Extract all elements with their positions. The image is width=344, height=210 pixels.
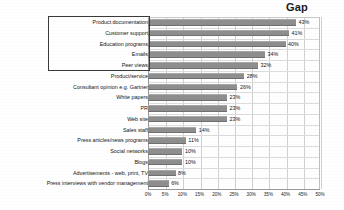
bar-row: Blogs10%	[0, 157, 344, 168]
bar-chart: Gap Product documentation43%Customer sup…	[0, 0, 344, 210]
bar	[148, 127, 196, 133]
category-label: White papers	[0, 92, 148, 103]
bar-value-label: 23%	[230, 103, 241, 114]
bar-value-label: 10%	[185, 157, 196, 168]
bar	[148, 94, 227, 100]
category-label: Sales staff	[0, 125, 148, 136]
chart-title: Gap	[286, 1, 308, 13]
bar	[148, 137, 186, 143]
category-label: Consultant opinion e.g. Gartner	[0, 82, 148, 93]
bar	[148, 19, 296, 25]
top-five-highlight-box	[48, 16, 150, 71]
category-label: PR	[0, 103, 148, 114]
bar-value-label: 34%	[267, 49, 278, 60]
bar-row: Press interviews with vendor management6…	[0, 178, 344, 189]
category-label: Web site	[0, 114, 148, 125]
bar-value-label: 10%	[185, 146, 196, 157]
bar	[148, 105, 227, 111]
bar-value-label: 26%	[240, 82, 251, 93]
bar-value-label: 40%	[288, 39, 299, 50]
bar	[148, 30, 289, 36]
bar	[148, 180, 169, 186]
bar	[148, 73, 244, 79]
bar-value-label: 14%	[199, 125, 210, 136]
x-tick-label: 50%	[310, 192, 330, 197]
bar-value-label: 41%	[292, 28, 303, 39]
bar	[148, 62, 258, 68]
bar-value-label: 11%	[188, 135, 198, 146]
bar-row: Press articles/news programs11%	[0, 135, 344, 146]
bar-row: Social networks10%	[0, 146, 344, 157]
bar-value-label: 23%	[230, 114, 241, 125]
category-label: Blogs	[0, 157, 148, 168]
category-label: Social networks	[0, 146, 148, 157]
bar-row: PR23%	[0, 103, 344, 114]
bar	[148, 170, 176, 176]
category-label: Press interviews with vendor management	[0, 178, 148, 189]
bar	[148, 41, 286, 47]
bar	[148, 51, 265, 57]
bar-row: Sales staff14%	[0, 125, 344, 136]
bar	[148, 116, 227, 122]
category-label: Press articles/news programs	[0, 135, 148, 146]
bar-row: White papers23%	[0, 92, 344, 103]
category-label: Product/service	[0, 71, 148, 82]
x-axis-line	[148, 189, 320, 190]
bar-value-label: 43%	[298, 17, 309, 28]
bar	[148, 148, 182, 154]
bar-value-label: 23%	[230, 92, 241, 103]
bar	[148, 84, 237, 90]
bar-value-label: 32%	[261, 60, 272, 71]
bar-value-label: 6%	[171, 178, 179, 189]
bar-row: Consultant opinion e.g. Gartner26%	[0, 82, 344, 93]
bar-row: Product/service28%	[0, 71, 344, 82]
bar-row: Advertisements - web, print, TV8%	[0, 168, 344, 179]
bar-row: Web site23%	[0, 114, 344, 125]
category-label: Advertisements - web, print, TV	[0, 168, 148, 179]
bar-value-label: 28%	[247, 71, 258, 82]
bar-value-label: 8%	[178, 168, 186, 179]
bar	[148, 159, 182, 165]
